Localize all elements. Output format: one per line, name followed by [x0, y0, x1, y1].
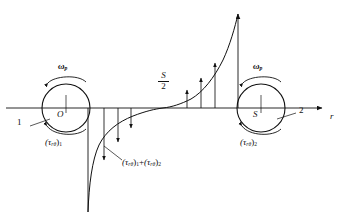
fraction-numerator: S [158, 71, 169, 80]
body-1-center-label: O [57, 110, 64, 119]
upward-stress-arrows [187, 63, 215, 108]
body-2-omega-label: ωp [253, 62, 262, 72]
body-2-callout-leader [277, 113, 296, 119]
fraction-denominator: 2 [158, 82, 169, 91]
midpoint-fraction: S 2 [158, 71, 169, 92]
combined-shear-stress-label: (τrθ)1+(τrθ)2 [122, 158, 161, 168]
body-1-rotation-arrow [48, 77, 86, 83]
body-2-center-label: S [253, 110, 258, 119]
curve-label-leader [104, 146, 122, 160]
axis-label-r: r [330, 112, 334, 121]
body-2-tau-label: (τrθ)2 [240, 138, 257, 148]
shear-stress-diagram: ωp O 1 (τrθ)1 ωp S 2 (τrθ)2 S 2 (τrθ)1+(… [0, 0, 354, 220]
body-1-callout-number: 1 [17, 118, 22, 127]
downward-stress-arrows [104, 108, 131, 160]
body-1-tau-label: (τrθ)1 [45, 138, 62, 148]
body-1-omega-label: ωp [58, 62, 67, 72]
body-2-rotation-arrow [243, 77, 281, 83]
shear-stress-curve [88, 14, 238, 212]
body-2-callout-number: 2 [299, 106, 304, 115]
